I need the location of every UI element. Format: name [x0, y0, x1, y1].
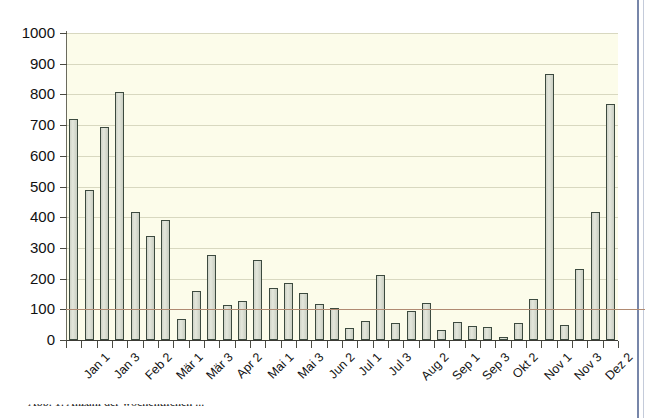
y-axis-label: 200	[0, 271, 55, 286]
x-axis-label: Okt 2	[510, 350, 541, 381]
x-axis-tick	[511, 341, 512, 348]
bar	[606, 104, 615, 340]
y-axis-label: 1000	[0, 25, 55, 40]
x-axis-tick	[189, 341, 190, 348]
x-axis-tick	[158, 341, 159, 348]
bar	[407, 311, 416, 340]
bar	[361, 321, 370, 340]
x-axis-label: Nov 1	[541, 350, 574, 383]
bar	[560, 325, 569, 340]
y-axis-label: 800	[0, 86, 55, 101]
bar	[575, 269, 584, 340]
bar	[345, 328, 354, 340]
bar	[391, 323, 400, 340]
x-axis-tick	[572, 341, 573, 348]
x-axis-tick	[327, 341, 328, 348]
y-axis-label: 400	[0, 209, 55, 224]
x-axis-tick	[265, 341, 266, 348]
bar	[529, 299, 538, 340]
bar	[591, 212, 600, 340]
x-axis-tick	[281, 341, 282, 348]
y-axis-label: 700	[0, 117, 55, 132]
x-axis-label: Jul 3	[386, 350, 415, 379]
bar	[238, 301, 247, 340]
x-axis-label: Dez 2	[603, 350, 636, 383]
x-axis-tick	[219, 341, 220, 348]
x-axis-tick	[603, 341, 604, 348]
y-axis-tick	[60, 94, 67, 95]
x-axis-label: Jan 3	[111, 350, 143, 382]
bar	[69, 119, 78, 340]
reference-line-100	[66, 309, 645, 310]
x-axis-tick	[403, 341, 404, 348]
bar	[146, 236, 155, 340]
y-axis-tick	[60, 248, 67, 249]
x-axis-tick	[235, 341, 236, 348]
y-axis-tick	[60, 156, 67, 157]
x-axis-tick	[127, 341, 128, 348]
x-axis-tick	[587, 341, 588, 348]
x-axis-label: Sep 1	[449, 350, 482, 383]
x-axis-tick	[173, 341, 174, 348]
x-axis-tick	[480, 341, 481, 348]
x-axis-label: Jun 2	[326, 350, 358, 382]
y-axis-label: 300	[0, 240, 55, 255]
x-axis-tick	[97, 341, 98, 348]
x-axis-label: Jul 1	[355, 350, 384, 379]
x-axis-tick	[618, 341, 619, 348]
bar	[499, 337, 508, 340]
x-axis-tick	[296, 341, 297, 348]
x-axis-label: Mär 3	[204, 350, 236, 382]
bar	[223, 305, 232, 340]
x-axis-tick	[204, 341, 205, 348]
bar	[85, 190, 94, 340]
bar	[483, 327, 492, 340]
bar	[437, 330, 446, 340]
y-axis-label: 100	[0, 301, 55, 316]
bar-chart: 01002003004005006007008009001000 Jan 1Ja…	[0, 0, 645, 418]
bar	[131, 212, 140, 340]
x-axis-tick	[526, 341, 527, 348]
x-axis-tick	[388, 341, 389, 348]
gridline	[66, 64, 618, 65]
bar	[161, 220, 170, 340]
bar	[330, 308, 339, 340]
x-axis-tick	[143, 341, 144, 348]
y-axis-tick	[60, 279, 67, 280]
y-axis-tick	[60, 187, 67, 188]
x-axis-tick	[541, 341, 542, 348]
y-axis-label: 600	[0, 148, 55, 163]
x-axis-label: Mär 1	[173, 350, 205, 382]
x-axis-tick	[66, 341, 67, 348]
x-axis-tick	[419, 341, 420, 348]
x-axis-tick	[434, 341, 435, 348]
x-axis-tick	[250, 341, 251, 348]
bar	[207, 255, 216, 340]
gridline	[66, 217, 618, 218]
caption-text: Abb. 1: Anzahl der wöchentlichen ...	[28, 404, 204, 410]
x-axis-label: Apr 2	[234, 350, 265, 381]
x-axis-label: Jan 1	[81, 350, 113, 382]
bar	[468, 326, 477, 340]
y-axis-tick	[60, 125, 67, 126]
gridline	[66, 187, 618, 188]
bar	[192, 291, 201, 340]
bar	[514, 323, 523, 340]
gridline	[66, 94, 618, 95]
y-axis-label: 0	[0, 332, 55, 347]
y-axis-tick	[60, 64, 67, 65]
x-axis-tick	[342, 341, 343, 348]
bar	[545, 74, 554, 340]
y-axis-tick	[60, 217, 67, 218]
x-axis-label: Nov 3	[572, 350, 605, 383]
scanned-page: 01002003004005006007008009001000 Jan 1Ja…	[0, 0, 645, 418]
y-axis-label: 900	[0, 56, 55, 71]
x-axis-label: Sep 3	[480, 350, 513, 383]
bar	[284, 283, 293, 340]
x-axis-tick	[357, 341, 358, 348]
x-axis-tick	[449, 341, 450, 348]
bar	[177, 319, 186, 340]
x-axis-tick	[311, 341, 312, 348]
bar	[100, 127, 109, 340]
gridline	[66, 156, 618, 157]
